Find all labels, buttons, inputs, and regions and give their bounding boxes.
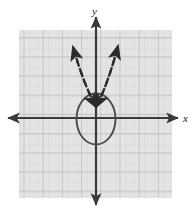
x-axis-label: x: [182, 112, 188, 124]
coordinate-plane: y x: [0, 0, 195, 211]
y-axis-label: y: [91, 5, 97, 17]
graph-figure: y x: [0, 0, 195, 211]
